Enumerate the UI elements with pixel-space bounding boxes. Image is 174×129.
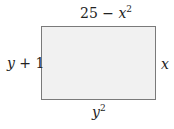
right-side-label: x: [161, 57, 169, 71]
right-label-var: x: [161, 56, 169, 72]
left-label-rest: + 1: [15, 55, 45, 71]
bottom-side-label: y2: [92, 104, 106, 119]
left-label-var: y: [7, 55, 15, 71]
rectangle-shape: [41, 26, 156, 100]
top-label-base: 25 −: [80, 5, 118, 21]
top-label-exp: 2: [126, 4, 132, 14]
bottom-label-exp: 2: [100, 103, 106, 113]
top-side-label: 25 − x2: [80, 5, 132, 20]
left-side-label: y + 1: [7, 56, 44, 70]
bottom-label-var: y: [92, 104, 100, 120]
